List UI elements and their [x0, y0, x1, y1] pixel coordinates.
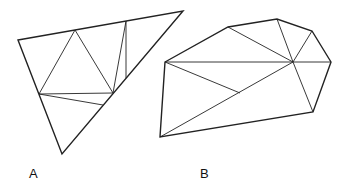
- interior-edge: [39, 94, 103, 105]
- interior-edge: [39, 30, 75, 94]
- figure-b-triangulated-polygon: [160, 19, 331, 137]
- figure-b-label: B: [200, 167, 209, 180]
- triangulation-diagram: [0, 0, 344, 185]
- interior-edge: [293, 31, 312, 62]
- figure-a-triangulated-triangle: [18, 11, 183, 154]
- interior-edge: [113, 21, 126, 93]
- interior-edge: [39, 93, 113, 94]
- interior-edge: [293, 62, 313, 112]
- interior-edge: [165, 62, 240, 93]
- figure-a-label: A: [29, 167, 38, 180]
- outline: [18, 11, 183, 154]
- interior-edge: [228, 27, 293, 62]
- interior-edge: [75, 30, 113, 93]
- interior-edge: [277, 19, 293, 62]
